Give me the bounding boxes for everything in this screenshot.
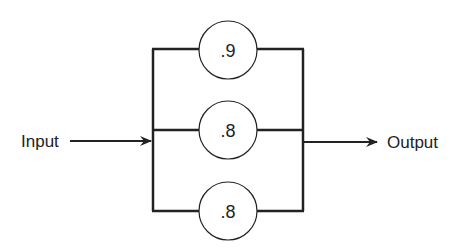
reliability-diagram: .9 .8 .8 Input Output [0, 0, 461, 248]
output-label: Output [387, 133, 438, 152]
input-label: Input [21, 132, 59, 151]
component-reliability: .8 [220, 121, 235, 141]
component-reliability: .8 [220, 202, 235, 222]
component-reliability: .9 [220, 41, 235, 61]
branch-3: .8 [152, 182, 304, 240]
branch-1: .9 [152, 21, 304, 79]
branch-2: .8 [152, 101, 304, 159]
